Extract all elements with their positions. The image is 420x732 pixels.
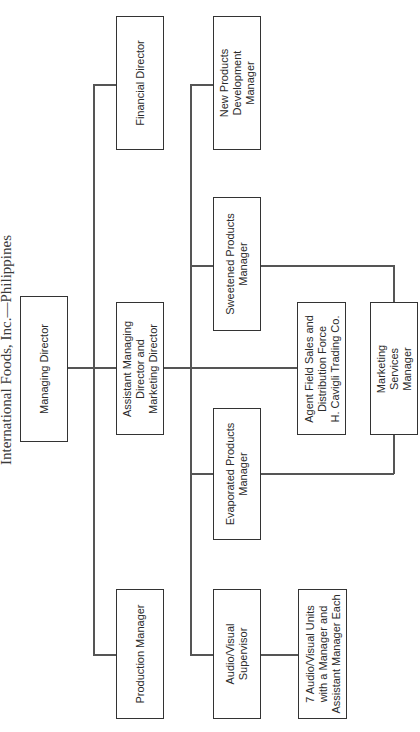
node-label: Agent Field Sales and Distribution Force… [302,315,341,423]
node-evaporated-products-manager: Evaporated Products Manager [213,408,261,540]
node-av-units: 7 Audio/Visual Units with a Manager and … [298,589,347,719]
connector-assistant-md [93,367,117,369]
connector-agent [190,367,298,369]
node-sweetened-products-manager: Sweetened Products Manager [213,197,261,331]
node-audio-visual-supervisor: Audio/Visual Supervisor [213,589,261,719]
node-label: 7 Audio/Visual Units with a Manager and … [303,594,342,713]
connector-production [93,654,117,656]
chart-title: International Foods, Inc.—Philippines [0,200,16,500]
connector-financial [93,84,117,86]
node-financial-director: Financial Director [116,16,164,150]
spine-level1 [93,84,95,655]
node-new-products-manager: New Products Development Manager [213,16,261,150]
connector-new-products [190,84,214,86]
connector-audio-visual [190,654,214,656]
node-label: Production Manager [134,604,147,703]
node-label: Assistant Managing Director and Marketin… [121,321,160,417]
node-managing-director: Managing Director [20,296,68,442]
connector-sweetened-marketing-h [261,265,394,267]
node-label: New Products Development Manager [218,49,257,117]
connector-evaporated-marketing-h [261,473,394,475]
connector-sweetened [190,265,214,267]
spine-level2 [190,84,192,655]
connector-evaporated-marketing-v [393,434,395,474]
node-label: Sweetened Products Manager [224,213,250,315]
connector-av-units [261,654,299,656]
node-production-manager: Production Manager [116,589,164,719]
node-label: Audio/Visual Supervisor [224,624,250,685]
node-agent-field-sales: Agent Field Sales and Distribution Force… [297,302,346,435]
node-label: Evaporated Products Manager [224,423,250,526]
node-label: Marketing Services Manager [375,344,414,392]
node-label: Financial Director [134,40,147,126]
connector-evaporated [190,473,214,475]
node-assistant-managing-director: Assistant Managing Director and Marketin… [116,302,164,435]
node-label: Managing Director [38,324,51,414]
connector-md-spine1 [68,367,94,369]
connector-amd-spine2 [164,367,191,369]
node-marketing-services-manager: Marketing Services Manager [370,302,418,435]
connector-sweetened-marketing-v [393,265,395,303]
